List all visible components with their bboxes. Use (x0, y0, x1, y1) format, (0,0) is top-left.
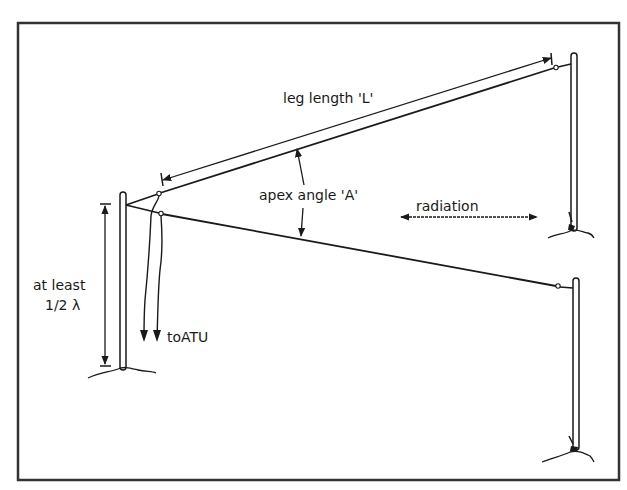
height-dimension (100, 204, 111, 366)
arrow-down-icon (153, 330, 161, 342)
radiation-label: radiation (416, 198, 479, 214)
arrow-down-icon (140, 330, 148, 342)
leg-length-label: leg length 'L' (283, 90, 373, 106)
leg-length-dimension (161, 53, 552, 186)
to-atu-label: toATU (167, 329, 208, 345)
upper-right-mast (548, 53, 594, 238)
v-beam-antenna-diagram: leg length 'L' apex angle 'A' radiation … (0, 0, 627, 490)
feedline (140, 196, 162, 342)
apex-angle-label: apex angle 'A' (259, 187, 358, 203)
height-label-line2: 1/2 λ (45, 297, 80, 313)
upper-leg-wire (126, 64, 571, 205)
lower-right-mast (542, 278, 594, 462)
height-label-line1: at least (33, 277, 86, 293)
